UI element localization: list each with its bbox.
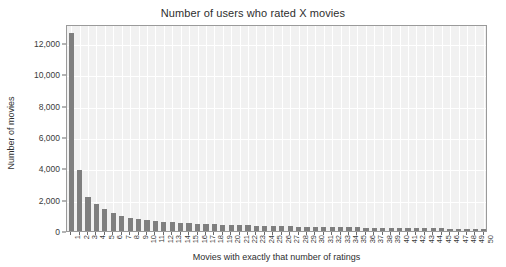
- x-axis-tick-label: 37: [376, 235, 385, 243]
- bar: [237, 225, 242, 231]
- x-axis-tick-mark: [70, 232, 71, 235]
- x-axis-label: Movies with exactly that number of ratin…: [66, 252, 487, 262]
- x-axis-tick-label: 50: [486, 235, 495, 243]
- x-axis-tick-mark: [129, 232, 130, 235]
- x-axis-tick-mark: [230, 232, 231, 235]
- bar: [330, 227, 335, 231]
- x-axis-tick-mark: [289, 232, 290, 235]
- x-axis-tick-mark: [306, 232, 307, 235]
- x-axis-tick-mark: [365, 232, 366, 235]
- bar: [447, 229, 452, 232]
- bar: [464, 229, 469, 231]
- bar: [195, 224, 200, 231]
- x-axis-tick-mark: [399, 232, 400, 235]
- x-axis-tick-mark: [171, 232, 172, 235]
- x-axis-tick-mark: [104, 232, 105, 235]
- x-axis-tick-label: 39: [393, 235, 402, 243]
- x-axis-tick-mark: [340, 232, 341, 235]
- x-axis-tick-label: 44: [435, 235, 444, 243]
- bar: [304, 227, 309, 231]
- y-axis-tick-label: 10,000: [34, 70, 60, 80]
- bar: [119, 216, 124, 231]
- bar: [296, 227, 301, 231]
- chart-figure: Number of users who rated X movies Numbe…: [0, 0, 506, 267]
- bar: [372, 228, 377, 231]
- x-axis-tick-mark: [264, 232, 265, 235]
- chart-title: Number of users who rated X movies: [0, 7, 506, 19]
- bar: [212, 224, 217, 231]
- x-axis-tick-mark: [458, 232, 459, 235]
- bar: [111, 213, 116, 231]
- y-axis-tick-label: 0: [55, 227, 60, 237]
- x-axis-tick-mark: [138, 232, 139, 235]
- x-axis-tick-mark: [281, 232, 282, 235]
- x-axis-tick-mark: [146, 232, 147, 235]
- bar: [262, 226, 267, 231]
- x-axis-tick-label: 13: [174, 235, 183, 243]
- x-axis-tick-mark: [298, 232, 299, 235]
- bar: [85, 197, 90, 231]
- plot-area: [66, 25, 487, 232]
- x-axis-tick-mark: [188, 232, 189, 235]
- x-axis-tick-label: 25: [275, 235, 284, 243]
- x-axis-tick-mark: [466, 232, 467, 235]
- bar: [271, 226, 276, 231]
- x-axis-tick-mark: [197, 232, 198, 235]
- x-axis-tick-mark: [205, 232, 206, 235]
- x-axis-tick-label: 1: [73, 235, 82, 239]
- bar: [414, 228, 419, 231]
- x-axis-tick-label: 32: [334, 235, 343, 243]
- y-axis-tick-label: 4,000: [39, 164, 60, 174]
- bar: [245, 225, 250, 231]
- x-axis-tick-mark: [180, 232, 181, 235]
- bar: [77, 170, 82, 231]
- x-axis-tick-mark: [163, 232, 164, 235]
- x-axis-tick-mark: [255, 232, 256, 235]
- x-axis-tick-mark: [314, 232, 315, 235]
- bar: [397, 228, 402, 231]
- x-axis-tick-mark: [239, 232, 240, 235]
- bar: [288, 226, 293, 231]
- x-axis-tick-label: 27: [292, 235, 301, 243]
- x-axis-tick-mark: [222, 232, 223, 235]
- x-axis-tick-mark: [449, 232, 450, 235]
- x-axis-tick-mark: [79, 232, 80, 235]
- bar: [69, 33, 74, 231]
- bar: [128, 218, 133, 231]
- bar: [102, 209, 107, 231]
- x-axis-tick-mark: [121, 232, 122, 235]
- x-axis-tick-label: 18: [216, 235, 225, 243]
- bar: [153, 221, 158, 231]
- x-axis-tick-mark: [95, 232, 96, 235]
- bar: [144, 220, 149, 231]
- x-axis-tick-mark: [356, 232, 357, 235]
- x-axis-tick-mark: [247, 232, 248, 235]
- bar: [254, 226, 259, 231]
- y-axis-tick-label: 12,000: [34, 39, 60, 49]
- x-axis-tick-mark: [415, 232, 416, 235]
- x-axis-tick-label: 8: [132, 235, 141, 239]
- bar: [431, 228, 436, 231]
- bar: [338, 227, 343, 231]
- x-axis-tick-mark: [373, 232, 374, 235]
- bar: [178, 223, 183, 231]
- x-axis-tick-mark: [432, 232, 433, 235]
- x-axis-tick-mark: [323, 232, 324, 235]
- bar-series: [67, 26, 486, 231]
- bar: [203, 224, 208, 231]
- x-axis-tick-mark: [441, 232, 442, 235]
- bar: [186, 223, 191, 231]
- x-axis-tick-mark: [87, 232, 88, 235]
- bar: [136, 219, 141, 231]
- bar: [473, 229, 478, 231]
- x-axis-tick-label: 15: [191, 235, 200, 243]
- x-axis-tick-label: 20: [233, 235, 242, 243]
- bar: [380, 228, 385, 231]
- x-axis-tick-mark: [474, 232, 475, 235]
- x-axis-tick-mark: [112, 232, 113, 235]
- y-axis-tick-label: 8,000: [39, 102, 60, 112]
- y-axis-ticks: 02,0004,0006,0008,00010,00012,000: [0, 25, 66, 232]
- x-axis-tick-label: 49: [477, 235, 486, 243]
- bar: [481, 229, 486, 231]
- bar: [456, 229, 461, 231]
